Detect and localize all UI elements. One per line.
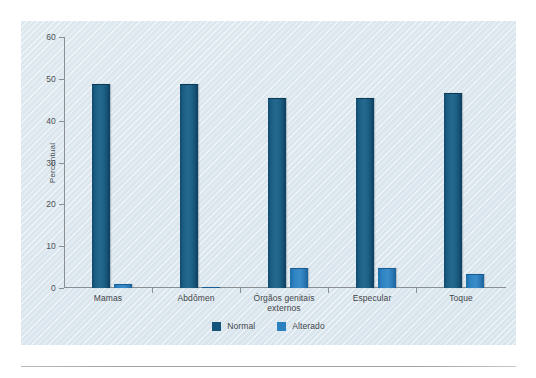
bar-normal-abdomen[interactable] xyxy=(180,84,198,288)
y-tick-label-0: 0 xyxy=(51,283,56,293)
x-axis-label-toque-line1: Toque xyxy=(416,293,506,303)
x-axis-label-abdomen: Abdômen xyxy=(152,293,240,303)
x-axis-label-abdomen-line1: Abdômen xyxy=(152,293,240,303)
legend-label-normal: Normal xyxy=(227,321,255,331)
plot-area: Percentual 60 50 40 30 20 xyxy=(64,37,506,288)
bar-altered-especular[interactable] xyxy=(378,268,396,288)
bar-altered-abdomen[interactable] xyxy=(202,287,220,288)
x-axis-label-orgaos-line1: Órgãos genitais xyxy=(240,293,328,303)
bar-group-especular xyxy=(328,37,416,288)
x-axis-label-orgaos-genitais-externos: Órgãos genitais externos xyxy=(240,293,328,313)
legend-swatch-alterado-icon xyxy=(277,322,286,331)
x-axis-label-especular-line1: Especular xyxy=(328,293,416,303)
bar-group-mamas xyxy=(64,37,152,288)
bar-altered-orgaos-genitais-externos[interactable] xyxy=(290,268,308,288)
legend-item-normal[interactable]: Normal xyxy=(212,321,255,331)
bar-normal-mamas[interactable] xyxy=(92,84,110,288)
bar-normal-toque[interactable] xyxy=(444,93,462,288)
chart-panel: Percentual 60 50 40 30 20 xyxy=(21,21,516,345)
x-axis-label-mamas: Mamas xyxy=(64,293,152,303)
x-axis-label-especular: Especular xyxy=(328,293,416,303)
chart-legend: Normal Alterado xyxy=(21,321,516,331)
x-axis-label-mamas-line1: Mamas xyxy=(64,293,152,303)
horizontal-rule xyxy=(21,366,516,367)
y-tick-label-10: 10 xyxy=(46,241,56,251)
bar-group-toque xyxy=(416,37,506,288)
bar-altered-mamas[interactable] xyxy=(114,284,132,288)
legend-label-alterado: Alterado xyxy=(292,321,324,331)
y-tick-label-30: 30 xyxy=(46,158,56,168)
bar-normal-orgaos-genitais-externos[interactable] xyxy=(268,98,286,288)
x-axis-label-toque: Toque xyxy=(416,293,506,303)
bar-altered-toque[interactable] xyxy=(466,274,484,288)
x-axis-label-orgaos-line2: externos xyxy=(240,303,328,313)
y-tick-label-60: 60 xyxy=(46,32,56,42)
legend-swatch-normal-icon xyxy=(212,322,221,331)
bar-group-abdomen xyxy=(152,37,240,288)
bar-normal-especular[interactable] xyxy=(356,98,374,288)
legend-item-alterado[interactable]: Alterado xyxy=(277,321,324,331)
y-tick-label-40: 40 xyxy=(46,116,56,126)
y-tick-label-50: 50 xyxy=(46,74,56,84)
bar-group-orgaos-genitais-externos xyxy=(240,37,328,288)
y-tick-label-20: 20 xyxy=(46,199,56,209)
scanned-page: Percentual 60 50 40 30 20 xyxy=(0,0,536,378)
